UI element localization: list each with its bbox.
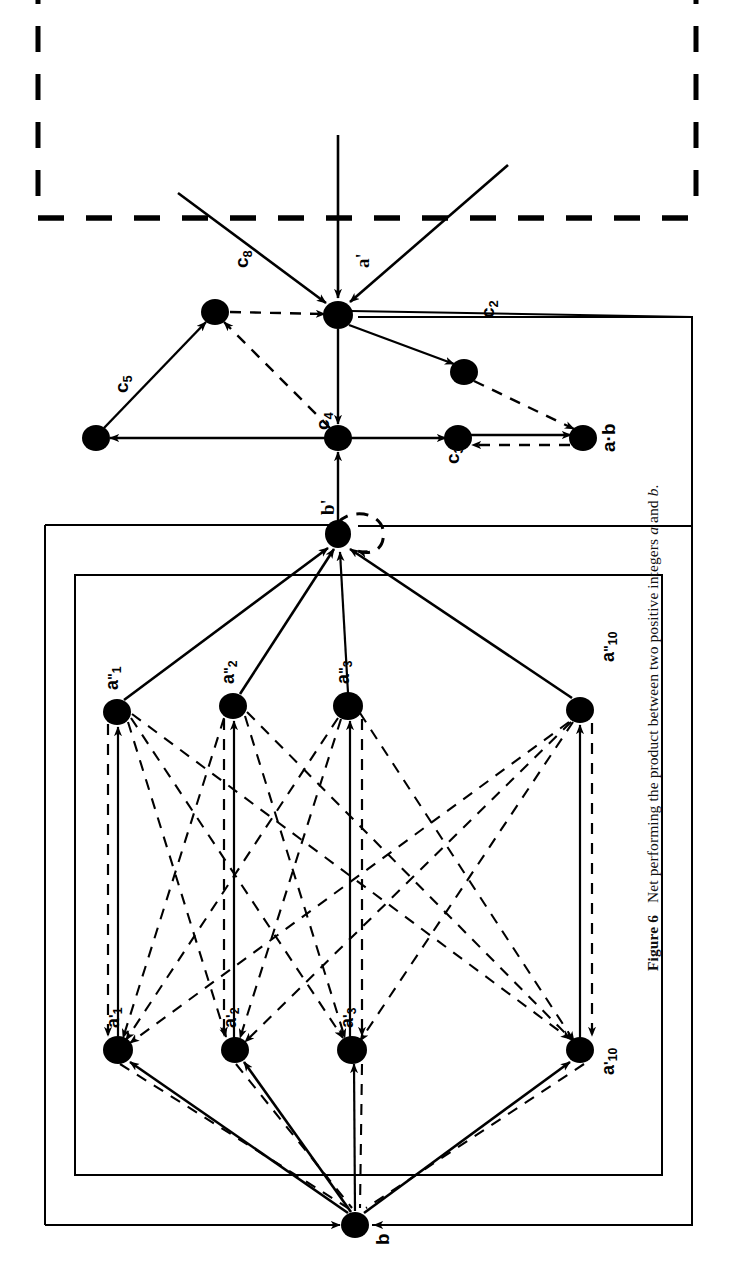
figure-caption-pre: Net performing the product between two p… (644, 535, 661, 903)
edges-ap-to-b-dashed (120, 1064, 584, 1208)
label-ap10: a'10 (598, 1048, 619, 1075)
label-app3: a"3 (333, 660, 354, 684)
node-ap10[interactable] (566, 1037, 594, 1063)
node-group (82, 299, 597, 1238)
label-app2: a"2 (218, 660, 239, 684)
node-c2[interactable] (450, 359, 478, 385)
edges-c-layer (104, 311, 692, 522)
net-diagram (0, 0, 745, 1268)
figure-number: Figure 6 (644, 915, 661, 971)
label-c5: c5 (111, 375, 133, 393)
label-b-out: b' (317, 499, 339, 515)
node-ap1[interactable] (103, 1036, 133, 1064)
figure-caption: Figure 6Net performing the product betwe… (644, 271, 662, 971)
label-c4: c4 (312, 412, 334, 430)
edges-ap-to-app-solid (118, 721, 580, 1038)
node-b-out[interactable] (325, 520, 351, 548)
region-dashed-boundary (38, 0, 696, 218)
region-product-box (358, 317, 692, 526)
label-app1: a"1 (102, 666, 123, 690)
label-a-out: a' (352, 253, 374, 268)
label-b-in: b (372, 1233, 394, 1245)
figure-caption-mid: and (644, 496, 661, 527)
label-app10: a"10 (598, 632, 619, 662)
node-ap3[interactable] (337, 1036, 367, 1064)
label-c8: c8 (231, 250, 253, 268)
label-ap1: a'1 (103, 1008, 124, 1028)
label-ap3: a'3 (337, 1008, 358, 1028)
node-c5[interactable] (82, 425, 110, 451)
node-ap2[interactable] (221, 1037, 249, 1063)
figure-page: a' c8 c2 c5 c4 c3 a·b b' a"1 a"2 a"3 a"1… (0, 0, 745, 1268)
region-outer-box (45, 525, 692, 1225)
label-ab: a·b (598, 424, 620, 453)
node-c8[interactable] (201, 299, 229, 325)
edges-app-to-ap-dashed-cross (123, 712, 574, 1043)
label-c2: c2 (477, 300, 499, 318)
node-app10[interactable] (566, 697, 594, 723)
label-c3: c3 (442, 446, 464, 464)
edges-b-to-ap (130, 1062, 570, 1213)
node-app3[interactable] (333, 692, 363, 720)
node-app1[interactable] (103, 699, 131, 725)
figure-caption-var-a: a (644, 527, 661, 535)
node-b-in[interactable] (341, 1212, 369, 1238)
node-ab[interactable] (569, 425, 597, 451)
node-app2[interactable] (219, 693, 247, 719)
label-ap2: a'2 (220, 1008, 241, 1028)
node-a-out[interactable] (323, 301, 353, 329)
figure-caption-var-b: b (644, 488, 661, 496)
figure-caption-end: . (644, 484, 661, 488)
